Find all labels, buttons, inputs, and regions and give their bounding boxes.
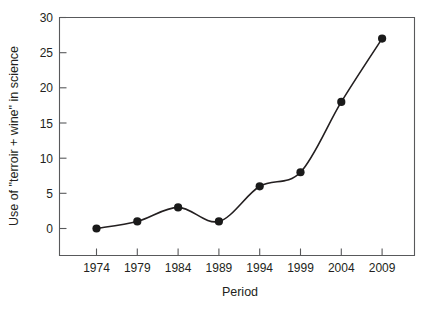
data-point [337, 98, 345, 106]
data-point [133, 217, 141, 225]
x-tick-label-1979: 1979 [124, 261, 151, 275]
y-tick-label-20: 20 [40, 81, 54, 95]
data-point [256, 182, 264, 190]
data-point [174, 203, 182, 211]
y-tick-label-25: 25 [40, 46, 54, 60]
data-point [215, 217, 223, 225]
x-tick-label-1999: 1999 [287, 261, 314, 275]
data-point [296, 168, 304, 176]
y-axis-title: Use of "terroir + wine" in science [7, 46, 21, 226]
y-tick-label-10: 10 [40, 152, 54, 166]
x-tick-label-1984: 1984 [165, 261, 192, 275]
y-tick-label-5: 5 [46, 187, 53, 201]
y-tick-label-15: 15 [40, 117, 54, 131]
line-chart-svg: 30 25 20 15 10 5 0 1974 1979 1984 1989 1… [0, 0, 431, 309]
x-tick-label-1994: 1994 [246, 261, 273, 275]
x-tick-label-2004: 2004 [328, 261, 355, 275]
x-tick-label-1974: 1974 [83, 261, 110, 275]
x-axis-title: Period [222, 285, 258, 299]
data-point [92, 224, 100, 232]
x-tick-label-2009: 2009 [369, 261, 396, 275]
y-tick-label-30: 30 [40, 11, 54, 25]
x-tick-label-1989: 1989 [206, 261, 233, 275]
chart-figure: 30 25 20 15 10 5 0 1974 1979 1984 1989 1… [0, 0, 431, 309]
y-tick-label-0: 0 [46, 222, 53, 236]
data-point [378, 35, 386, 43]
